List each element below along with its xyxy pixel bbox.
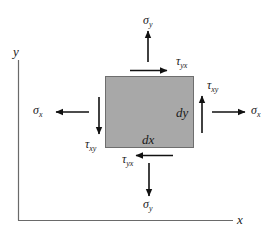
dx-label: dx [142,132,155,147]
tau-yx-bottom-label: τyx [122,152,134,168]
tau-yx-top: τyx [130,54,188,71]
y-axis-label: y [11,44,19,59]
sigma-y-bottom: σy [143,163,153,213]
tau-xy-left: τxy [85,97,99,153]
x-axis-label: x [236,212,243,227]
sigma-x-left-label: σx [33,103,43,119]
tau-xy-right: τxy [202,78,219,133]
sigma-y-top: σy [143,13,153,62]
tau-yx-bottom: τyx [122,152,173,168]
tau-xy-right-label: τxy [207,78,219,94]
tau-xy-left-label: τxy [85,137,97,153]
sigma-y-top-label: σy [143,13,153,29]
dy-label: dy [176,105,189,120]
sigma-y-bottom-label: σy [143,197,153,213]
tau-yx-top-label: τyx [176,54,188,70]
sigma-x-right-label: σx [251,103,261,119]
sigma-x-left: σx [33,103,89,119]
diagram-svg: y x dx dy σy τyx τxy σx σx τxy τyx [0,0,276,234]
stress-element-diagram: y x dx dy σy τyx τxy σx σx τxy τyx [0,0,276,234]
sigma-x-right: σx [212,103,261,119]
